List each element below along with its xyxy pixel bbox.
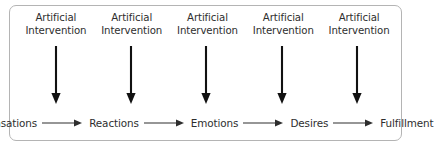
top-label-3-line1: Artificial [170,11,246,24]
top-label-5: Artificial Intervention [321,11,397,43]
right-arrow-3 [243,118,285,128]
top-label-1-line1: Artificial [18,11,94,24]
top-label-3: Artificial Intervention [170,11,246,43]
right-arrow-2 [144,118,186,128]
right-arrow-1 [42,118,84,128]
top-label-2: Artificial Intervention [94,11,170,43]
chain-label-reactions: Reactions [89,112,139,134]
right-arrow-4 [333,118,375,128]
chain-label-emotions: Emotions [191,112,239,134]
top-label-4-line1: Artificial [245,11,321,24]
top-label-row: Artificial Intervention Artificial Inter… [0,11,415,43]
chain-row: Sensations Reactions Emotions Desires Fu… [0,112,415,134]
chain-label-fulfillment: Fulfillment [380,112,433,134]
top-label-2-line1: Artificial [94,11,170,24]
top-label-1-line2: Intervention [18,24,94,37]
chain-label-sensations: Sensations [0,112,37,134]
top-label-5-line2: Intervention [321,24,397,37]
top-label-4: Artificial Intervention [245,11,321,43]
top-label-1: Artificial Intervention [18,11,94,43]
top-label-4-line2: Intervention [245,24,321,37]
chain-label-desires: Desires [290,112,328,134]
top-label-2-line2: Intervention [94,24,170,37]
top-label-5-line1: Artificial [321,11,397,24]
top-label-3-line2: Intervention [170,24,246,37]
